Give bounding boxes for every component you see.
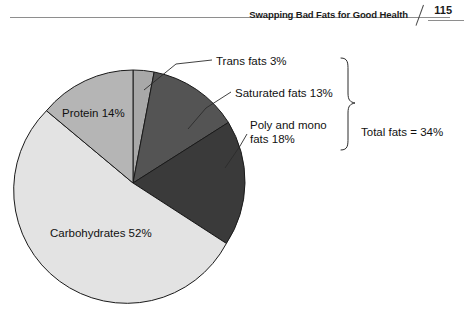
total-fats-brace-icon [341, 58, 355, 150]
slice-label-protein: Protein 14% [62, 107, 125, 119]
annotation-total-fats: Total fats = 34% [361, 125, 443, 139]
folio-underline [428, 20, 464, 21]
callout-saturated-fats: Saturated fats 13% [235, 86, 333, 100]
callout-poly-and-mono-fats-line1: Poly and mono [250, 118, 327, 132]
pie-chart-svg [0, 30, 472, 327]
callout-trans-fats: Trans fats 3% [216, 54, 287, 68]
page-number: 115 [434, 4, 452, 16]
document-page: Swapping Bad Fats for Good Health 115 [0, 0, 472, 327]
callout-poly-and-mono-fats: Poly and mono fats 18% [250, 118, 327, 146]
running-head-title: Swapping Bad Fats for Good Health [249, 9, 408, 20]
callout-poly-and-mono-fats-line2: fats 18% [250, 132, 327, 146]
slice-label-carbohydrates: Carbohydrates 52% [50, 227, 152, 239]
pie-chart-figure: Trans fats 3% Saturated fats 13% Poly an… [0, 30, 472, 327]
folio-slash-divider [416, 5, 424, 26]
